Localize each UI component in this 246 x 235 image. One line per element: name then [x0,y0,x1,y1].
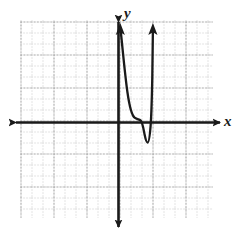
y-axis-label: y [122,5,131,21]
x-axis-label: x [223,113,232,129]
grid [20,20,213,218]
grid-major [20,20,213,218]
coordinate-plane-svg: x y [0,0,246,235]
graph-figure: x y [0,0,246,235]
